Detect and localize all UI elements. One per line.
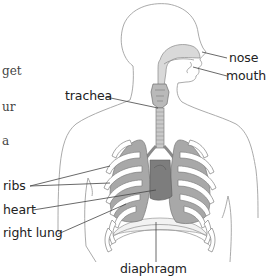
label-right-lung: right lung — [3, 227, 63, 240]
respiratory-diagram: get ur a nose mouth trachea ribs heart r… — [0, 0, 277, 276]
heart-shape — [150, 160, 172, 200]
right-lung-leader — [58, 204, 126, 234]
ribs-leader-2 — [30, 183, 110, 186]
nasal-cavity — [158, 45, 200, 86]
label-diaphragm: diaphragm — [120, 263, 187, 276]
larynx — [151, 84, 169, 108]
diaphragm-shape — [106, 218, 214, 246]
nose-leader — [202, 52, 227, 58]
cropped-text-fragment: get — [2, 65, 22, 77]
label-nose: nose — [229, 52, 258, 65]
label-heart: heart — [3, 204, 36, 217]
cropped-text-fragment: a — [2, 135, 9, 147]
label-mouth: mouth — [226, 70, 266, 83]
label-ribs: ribs — [3, 180, 26, 193]
cropped-text-fragment: ur — [2, 101, 15, 113]
label-trachea: trachea — [65, 90, 112, 103]
ribs-leader-1 — [30, 166, 110, 186]
